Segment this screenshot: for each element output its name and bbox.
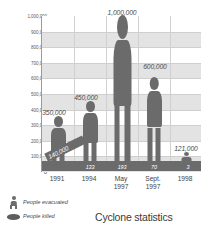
- killed-value-1998: 3: [187, 164, 190, 170]
- y-tick-label: 500,000: [0, 92, 47, 97]
- killed-value-sept-1997: 70: [151, 164, 157, 170]
- y-tick-label: 900,000: [0, 29, 47, 34]
- figure-head: [54, 116, 63, 127]
- y-tick-label: 200,000: [0, 138, 47, 143]
- killed-value-1994: 133: [86, 164, 95, 170]
- figure-torso: [113, 40, 131, 106]
- y-tick-label: 600,000: [0, 76, 47, 81]
- x-tick-1998: 1998: [163, 175, 207, 183]
- legend-label-killed: People killed: [23, 213, 55, 219]
- figure-evacuated-may-1997: [112, 15, 133, 171]
- y-tick-label: 300,000: [0, 123, 47, 128]
- figure-torso: [83, 113, 98, 143]
- evacuated-value-1994: 450,000: [74, 94, 98, 101]
- figure-torso: [147, 91, 162, 127]
- gridline-v: [106, 16, 107, 171]
- figure-head: [86, 101, 95, 113]
- evacuated-value-1998: 121,000: [174, 145, 198, 152]
- y-tick-label: 400,000: [0, 107, 47, 112]
- figure-head: [117, 15, 128, 39]
- person-icon: [9, 196, 18, 209]
- chart-title: Cyclone statistics: [95, 211, 173, 223]
- killed-value-may-1997: 193: [118, 164, 127, 170]
- legend-label-evacuated: People evacuated: [23, 199, 68, 205]
- evacuated-value-sept-1997: 600,000: [143, 63, 167, 70]
- y-tick-label: 100,000: [0, 154, 47, 159]
- figure-head: [184, 152, 189, 156]
- figure-evacuated-sept-1997: [146, 77, 163, 171]
- evacuated-value-1991: 350,000: [42, 109, 66, 116]
- cyclone-statistics-chart: 1,000,000 900,000 800,000 700,000 600,00…: [0, 0, 210, 239]
- oval-icon: [7, 214, 20, 220]
- gridline-v: [138, 16, 139, 171]
- gridline-v: [170, 16, 171, 171]
- figure-head: [149, 77, 159, 90]
- y-tick-label: 800,000: [0, 45, 47, 50]
- y-tick-label: 1,000,000: [0, 14, 47, 19]
- evacuated-value-may-1997: 1,000,000: [108, 9, 137, 16]
- y-tick-label: 700,000: [0, 60, 47, 65]
- legend-item-killed: People killed: [4, 210, 96, 224]
- legend-item-evacuated: People evacuated: [4, 196, 96, 210]
- legend: People evacuated People killed: [4, 196, 96, 224]
